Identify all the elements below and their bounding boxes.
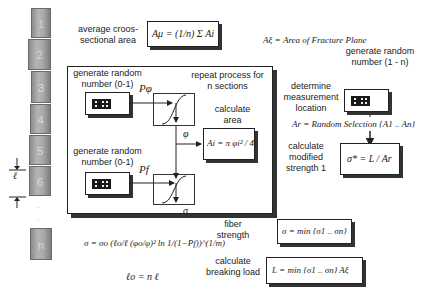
determine-location-label: determine measurement location <box>276 81 346 114</box>
modified-strength-box: σ* = L / Ar <box>340 143 400 175</box>
min-strength-box: σ = min {σ1 .. σn} <box>277 219 352 244</box>
random-generator-icon <box>344 89 389 112</box>
l0-equation: ℓo = n ℓ <box>126 271 159 282</box>
breaking-load-box: L = min {σ1 .. σn} Aξ <box>266 257 363 284</box>
breaking-load-equation: L = min {σ1 .. σn} Aξ <box>272 265 349 275</box>
breaking-load-label: calculate breaking load <box>202 256 264 278</box>
fiber-strength-label: fiber strength <box>208 219 258 241</box>
random-selection-equation: Ar = Random Selection {A1 .. An} <box>292 119 415 129</box>
strength-equation: σ = σo (ℓo/ℓ (φo/φ)² ln 1/(1−Pf))^(1/m) <box>84 238 225 248</box>
generate-random-n-label: generate random number (1 - n) <box>340 46 420 68</box>
calculate-modified-label: calculate modified strength 1 <box>276 141 336 174</box>
modified-strength-equation: σ* = L / Ar <box>347 153 392 164</box>
min-strength-equation: σ = min {σ1 .. σn} <box>282 226 347 236</box>
